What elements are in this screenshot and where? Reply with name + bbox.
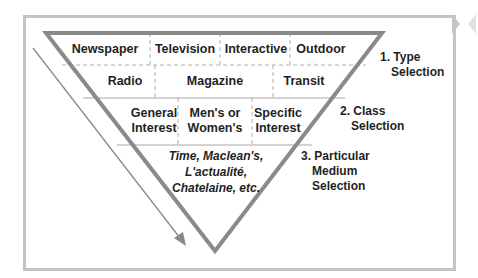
cell-specific-interest: Specific Interest xyxy=(254,106,302,136)
step-class-selection: 2. Class Selection xyxy=(340,104,404,134)
cell-interactive: Interactive xyxy=(225,42,288,57)
cell-magazine: Magazine xyxy=(187,74,243,89)
cell-radio: Radio xyxy=(108,74,143,89)
medium-examples: Time, Maclean's, L'actualité, Chatelaine… xyxy=(169,148,264,196)
funnel-triangle xyxy=(46,33,382,251)
cell-general-interest: General Interest xyxy=(131,106,178,136)
step-type-selection: 1. Type Selection xyxy=(380,50,444,80)
step-particular-medium-selection: 3. Particular Medium Selection xyxy=(301,149,370,194)
cell-outdoor: Outdoor xyxy=(296,42,345,57)
cell-television: Television xyxy=(155,42,215,57)
cell-newspaper: Newspaper xyxy=(72,42,139,57)
cell-transit: Transit xyxy=(284,74,325,89)
cell-mens-or-womens: Men's or Women's xyxy=(188,106,243,136)
